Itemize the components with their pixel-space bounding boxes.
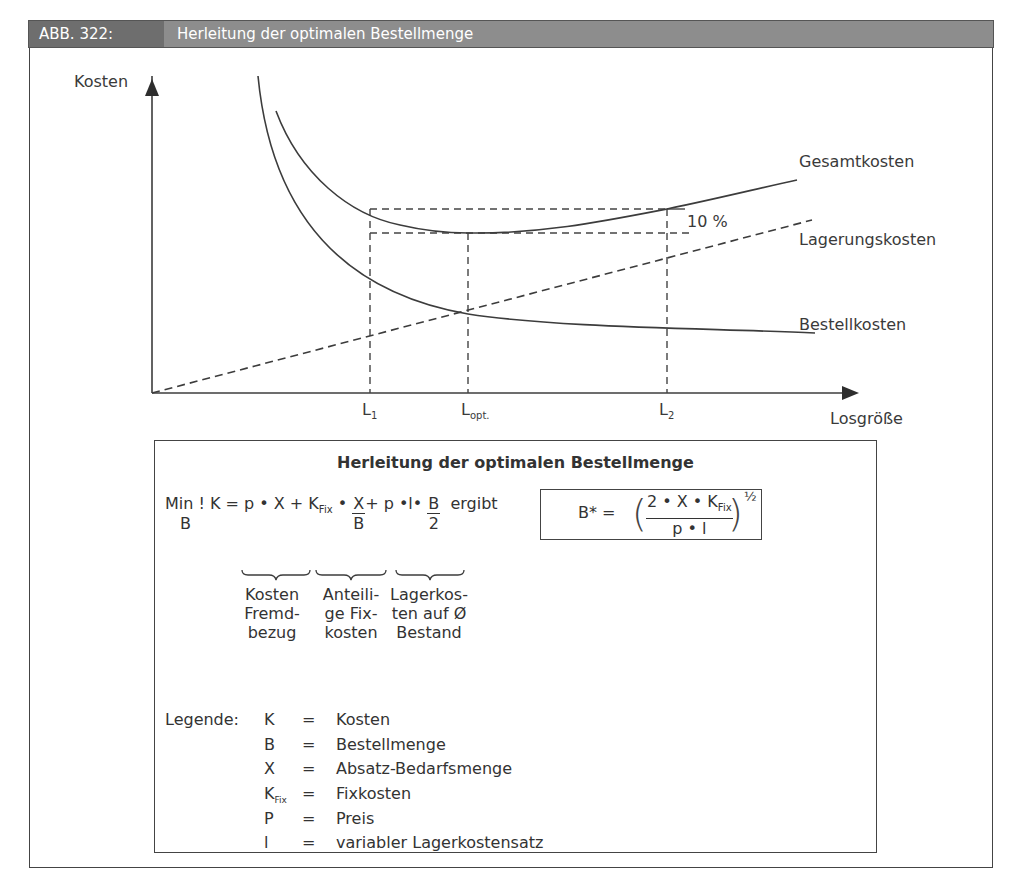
legend-row: l=variabler Lagerkostensatz: [264, 834, 543, 859]
brace-3-icon: [396, 570, 464, 580]
bstar-fraction: 2 • X • KFixp • l: [646, 492, 733, 539]
legend-row: X=Absatz-Bedarfsmenge: [264, 760, 543, 785]
legend-row: K=Kosten: [264, 711, 543, 736]
legend-label: Legende:: [165, 711, 239, 730]
legend-row: KFix=Fixkosten: [264, 785, 543, 810]
legend-row: B=Bestellmenge: [264, 736, 543, 761]
left-paren: (: [632, 491, 647, 535]
right-paren: ): [728, 491, 743, 535]
bstar-lhs: B* =: [578, 503, 615, 522]
legend-row: P=Preis: [264, 810, 543, 835]
bstar-exponent: ½: [744, 489, 757, 504]
brace-label-anteilige-fixkosten: Anteili-ge Fix-kosten: [309, 585, 393, 642]
brace-label-kosten-fremdbezug: KostenFremd-bezug: [232, 585, 312, 642]
legend: K=Kosten B=Bestellmenge X=Absatz-Bedarfs…: [264, 711, 543, 859]
brace-2-icon: [316, 570, 386, 580]
brace-1-icon: [242, 570, 310, 580]
brace-label-lagerkosten: Lagerkos-ten auf ØBestand: [387, 585, 471, 642]
